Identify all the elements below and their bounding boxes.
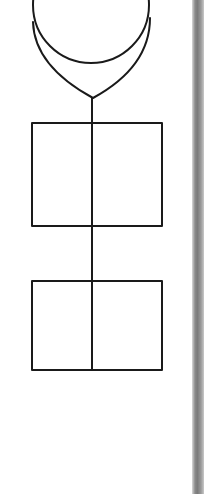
box-top [32,123,162,226]
line-diagram [0,0,204,494]
v-outline [33,18,150,98]
circle-head [33,0,149,63]
box-bottom [32,281,162,370]
page-edge-strip [192,0,204,494]
